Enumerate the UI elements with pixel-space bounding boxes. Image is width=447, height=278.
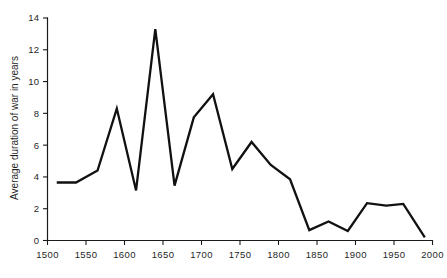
x-tick-label: 1500 xyxy=(36,249,59,260)
x-tick-label: 1950 xyxy=(383,249,406,260)
y-axis-title: Average duration of war in years xyxy=(9,56,20,200)
x-tick-label: 1900 xyxy=(344,249,367,260)
data-line-average-duration xyxy=(57,29,425,237)
x-tick-label: 2000 xyxy=(421,249,444,260)
x-tick-label: 1800 xyxy=(267,249,290,260)
x-tick-label: 1750 xyxy=(229,249,252,260)
y-tick-label: 14 xyxy=(28,12,39,23)
y-tick-label: 2 xyxy=(34,203,40,214)
line-chart: Average duration of war in years 0246810… xyxy=(0,0,447,278)
x-tick-label: 1600 xyxy=(113,249,136,260)
y-tick-label: 8 xyxy=(34,108,40,119)
x-tick-label: 1550 xyxy=(75,249,98,260)
y-tick-label: 12 xyxy=(28,44,39,55)
x-tick-label: 1650 xyxy=(152,249,175,260)
x-tick-label: 1700 xyxy=(190,249,213,260)
x-axis-tick-labels: 1500155016001650170017501800185019001950… xyxy=(36,249,444,260)
x-axis-ticks xyxy=(48,241,433,246)
y-axis-ticks xyxy=(43,18,48,241)
y-tick-label: 0 xyxy=(34,235,40,246)
y-axis-tick-labels: 02468101214 xyxy=(28,12,39,246)
x-tick-label: 1850 xyxy=(306,249,329,260)
chart-figure: Average duration of war in years 0246810… xyxy=(0,0,447,278)
y-tick-label: 4 xyxy=(34,171,40,182)
y-tick-label: 6 xyxy=(34,140,40,151)
y-tick-label: 10 xyxy=(28,76,39,87)
